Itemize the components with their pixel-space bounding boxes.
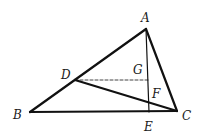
segment-DC [75, 80, 177, 111]
segment-AC [146, 29, 177, 111]
label-G: G [133, 63, 143, 77]
segment-AB [30, 29, 146, 112]
label-D: D [60, 68, 71, 82]
label-A: A [140, 11, 150, 25]
label-B: B [12, 108, 22, 122]
label-E: E [143, 120, 153, 134]
label-C: C [182, 109, 191, 123]
triangle-diagram: A B C D E F G [0, 0, 204, 136]
label-F: F [151, 87, 161, 101]
segment-AE [146, 29, 149, 112]
segment-BC [30, 111, 177, 112]
point-labels: A B C D E F G [12, 11, 191, 134]
